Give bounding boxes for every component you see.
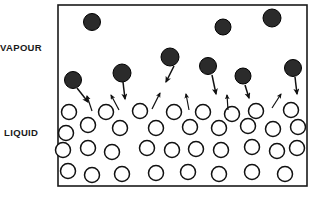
liquid-molecule — [212, 167, 227, 182]
vapour-molecule — [84, 14, 101, 31]
liquid-molecule — [81, 141, 96, 156]
liquid-molecule — [99, 105, 114, 120]
liquid-molecule — [241, 119, 256, 134]
liquid-molecule — [291, 120, 306, 135]
liquid-molecule — [133, 104, 148, 119]
liquid-molecule — [149, 166, 164, 181]
vapour-molecule — [215, 19, 231, 35]
vapour-molecule — [263, 9, 281, 27]
liquid-molecule — [113, 121, 128, 136]
liquid-molecule — [85, 168, 100, 183]
vapour-molecule — [65, 72, 82, 89]
liquid-molecule — [266, 122, 281, 137]
liquid-molecule — [140, 141, 155, 156]
liquid-molecule — [183, 120, 198, 135]
liquid-molecule — [270, 144, 285, 159]
liquid-molecule — [245, 140, 260, 155]
liquid-molecule — [212, 121, 227, 136]
liquid-molecule — [165, 143, 180, 158]
liquid-molecule — [181, 165, 196, 180]
diagram-figure: VAPOUR LIQUID — [0, 0, 320, 200]
liquid-molecule — [284, 103, 299, 118]
liquid-molecule — [167, 105, 182, 120]
container-box — [58, 5, 307, 186]
liquid-molecule — [149, 121, 164, 136]
vapour-molecule — [285, 60, 302, 77]
vapour-molecule — [113, 64, 131, 82]
liquid-molecule — [61, 164, 76, 179]
liquid-molecule — [278, 167, 293, 182]
liquid-molecule — [62, 105, 77, 120]
liquid-molecule — [225, 107, 240, 122]
liquid-molecule — [59, 126, 74, 141]
liquid-molecule — [189, 142, 204, 157]
liquid-molecule — [105, 145, 120, 160]
liquid-molecule — [81, 118, 96, 133]
liquid-molecule — [245, 165, 260, 180]
container-box-group — [58, 5, 307, 186]
liquid-molecule — [56, 143, 71, 158]
vapour-molecule — [161, 48, 179, 66]
liquid-molecule — [196, 105, 211, 120]
liquid-molecule — [115, 167, 130, 182]
vapour-molecule — [235, 68, 251, 84]
liquid-molecule — [214, 143, 229, 158]
vapour-molecule — [200, 58, 217, 75]
liquid-molecule — [249, 104, 264, 119]
vapour-region-label: VAPOUR — [0, 42, 42, 53]
liquid-region-label: LIQUID — [4, 127, 38, 138]
evaporation-condensation-diagram: VAPOUR LIQUID — [0, 0, 320, 200]
liquid-molecule — [290, 141, 305, 156]
